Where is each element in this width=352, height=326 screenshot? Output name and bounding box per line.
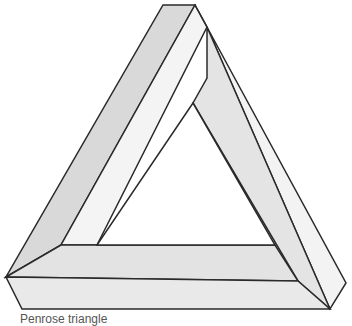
bottom-bar-front-face (6, 277, 330, 309)
figure-caption: Penrose triangle (20, 313, 107, 325)
